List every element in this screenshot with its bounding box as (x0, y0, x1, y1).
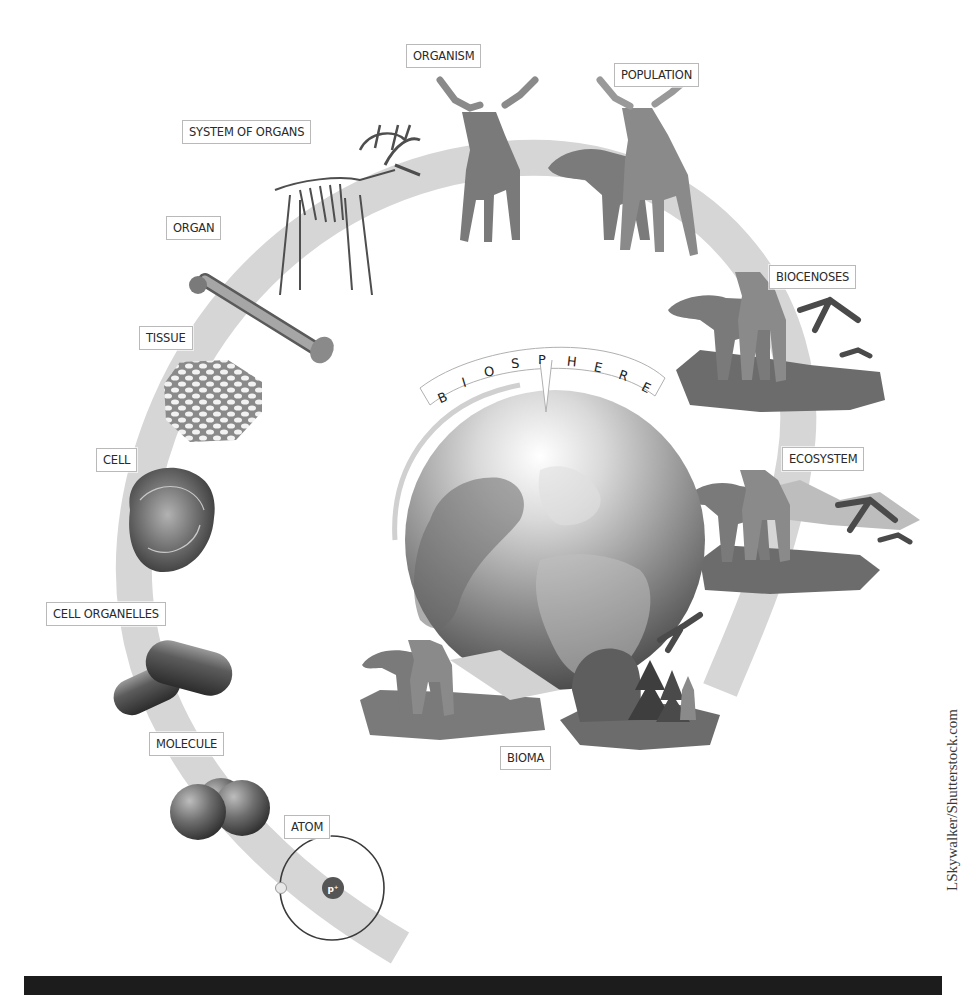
population-moose-illustration (548, 80, 698, 256)
cell-illustration (129, 468, 215, 572)
label-atom: ATOM (284, 815, 330, 839)
svg-text:p⁺: p⁺ (327, 884, 338, 894)
tissue-illustration (164, 360, 262, 442)
ecosystem-illustration (685, 470, 920, 594)
label-ecosystem: ECOSYSTEM (782, 447, 864, 471)
bottom-border-bar (24, 976, 942, 995)
molecule-illustration (170, 778, 270, 840)
label-biocenoses: BIOCENOSES (769, 265, 856, 289)
label-system-of-organs: SYSTEM OF ORGANS (182, 120, 311, 144)
credit-text: LSkywalker/Shutterstock.com (944, 709, 961, 891)
diagram-artwork: p⁺ (0, 0, 970, 999)
label-organ: ORGAN (166, 216, 221, 240)
label-cell: CELL (96, 448, 137, 472)
biosphere-diagram: p⁺ (0, 0, 970, 999)
biosphere-letter: S (510, 356, 520, 372)
label-bioma: BIOMA (500, 746, 551, 770)
biosphere-letter: P (538, 352, 546, 367)
label-molecule: MOLECULE (149, 732, 224, 756)
image-credit: LSkywalker/Shutterstock.com (940, 640, 964, 960)
label-population: POPULATION (614, 63, 699, 87)
label-cell-organelles: CELL ORGANELLES (46, 602, 166, 626)
globe-illustration (395, 385, 705, 690)
biosphere-letter: H (566, 354, 577, 370)
label-tissue: TISSUE (139, 326, 193, 350)
label-organism: ORGANISM (406, 44, 481, 68)
